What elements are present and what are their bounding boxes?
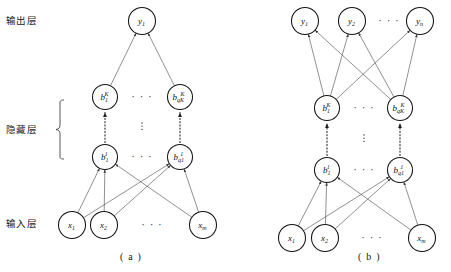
connection-edge bbox=[403, 34, 417, 96]
layer-label-input: 输入层 bbox=[6, 219, 37, 229]
connection-edge bbox=[78, 168, 100, 213]
ellipsis: · · · bbox=[131, 150, 153, 162]
connection-edge bbox=[298, 181, 321, 226]
vertical-ellipsis-dot bbox=[141, 122, 142, 123]
connection-edge bbox=[330, 34, 348, 96]
panel-b-caption: ( b ) bbox=[358, 252, 381, 262]
connection-edge bbox=[336, 30, 410, 99]
panel-b-nodes: y1y2ynb1KbqKKb11bq11x1x2xm· · ·· · ·· · … bbox=[279, 8, 436, 252]
connection-edge bbox=[104, 169, 105, 211]
connection-edge bbox=[404, 182, 418, 225]
connection-edge bbox=[114, 165, 171, 216]
ellipsis: · · · bbox=[353, 163, 375, 175]
ellipsis: · · · bbox=[361, 231, 383, 243]
panel-a-edges bbox=[78, 33, 199, 218]
ellipsis: · · · bbox=[131, 90, 153, 102]
vertical-ellipsis-dot bbox=[363, 138, 364, 139]
layer-label-hidden: 隐藏层 bbox=[6, 125, 37, 135]
panel-a-caption: ( a ) bbox=[120, 252, 142, 262]
network-diagram-svg: y1b1KbqKKb11bq11x1x2xm· · ·· · ·· · · y1… bbox=[0, 0, 451, 272]
connection-edge bbox=[184, 169, 199, 212]
vertical-ellipsis-dot bbox=[363, 141, 364, 142]
connection-edge bbox=[148, 33, 174, 86]
hidden-bottom-node-1-label: b11 bbox=[323, 164, 331, 176]
connection-edge bbox=[303, 177, 389, 231]
vertical-ellipsis-dot bbox=[141, 129, 142, 130]
hidden-bottom-node-1-label: b11 bbox=[101, 151, 109, 163]
figure-root: y1b1KbqKKb11bq11x1x2xm· · ·· · ·· · · y1… bbox=[0, 0, 451, 272]
ellipsis: · · · bbox=[378, 14, 400, 26]
connection-edge bbox=[110, 33, 136, 86]
layer-label-output: 输出层 bbox=[6, 16, 37, 26]
connection-edge bbox=[315, 30, 391, 99]
connection-edge bbox=[325, 182, 326, 224]
panel-b-edges bbox=[298, 30, 418, 231]
vertical-ellipsis-dot bbox=[141, 126, 142, 127]
hidden-layer-brace bbox=[56, 100, 64, 159]
connection-edge bbox=[335, 178, 391, 229]
vertical-ellipsis-dot bbox=[363, 134, 364, 135]
connection-edge bbox=[337, 177, 411, 230]
ellipsis: · · · bbox=[353, 101, 375, 113]
connection-edge bbox=[359, 33, 394, 97]
connection-edge bbox=[308, 34, 324, 96]
ellipsis: · · · bbox=[141, 218, 163, 230]
